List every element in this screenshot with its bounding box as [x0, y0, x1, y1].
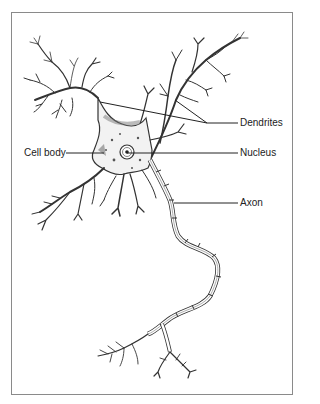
- label-dendrites: Dendrites: [240, 117, 283, 129]
- lower-left-dendrites: [32, 168, 104, 230]
- label-axon: Axon: [240, 197, 263, 209]
- label-cell-body: Cell body: [24, 147, 66, 159]
- right-upper-dendrites: [150, 32, 248, 160]
- axon: [148, 160, 221, 352]
- lower-middle-dendrites: [100, 170, 156, 216]
- right-small-dendrite: [150, 124, 186, 140]
- dendrites-leader-1: [100, 102, 207, 123]
- axon-terminals: [98, 334, 196, 378]
- middle-dendrite: [140, 86, 154, 124]
- label-nucleus: Nucleus: [240, 147, 276, 159]
- cell-body: [92, 98, 152, 175]
- nucleus: [120, 145, 134, 159]
